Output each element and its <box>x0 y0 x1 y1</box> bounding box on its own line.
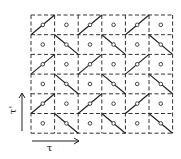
lattice-point <box>135 62 139 66</box>
lattice-point <box>41 122 45 126</box>
grid-cell-slash <box>78 94 102 114</box>
lattice-point <box>159 102 163 106</box>
vertical-axis-label: τ' <box>7 106 18 114</box>
lattice-point <box>159 122 163 126</box>
grid-cell-dot <box>159 23 163 27</box>
grid-cell-dot <box>65 102 69 106</box>
lattice-point <box>41 23 45 27</box>
lattice-point <box>135 43 139 47</box>
lattice-point <box>41 102 45 106</box>
lattice-point <box>88 82 92 86</box>
grid-cell-dot <box>135 122 139 126</box>
lattice-point <box>65 82 69 86</box>
grid-cell-dot <box>88 122 92 126</box>
grid-cell-dot <box>159 62 163 66</box>
lattice-point <box>135 122 139 126</box>
grid-cell-slash <box>125 15 149 35</box>
grid-cell-backslash <box>55 114 79 134</box>
grid-cell-dot <box>65 62 69 66</box>
horizontal-axis-arrow <box>32 138 79 144</box>
lattice-point <box>159 82 163 86</box>
lattice-point <box>112 122 116 126</box>
grid-cell-dot <box>135 43 139 47</box>
grid-cell-dot <box>88 43 92 47</box>
grid-cell-backslash <box>149 114 173 134</box>
grid-cell-slash <box>31 15 55 35</box>
lattice-point <box>65 43 69 47</box>
lattice-point <box>135 82 139 86</box>
lattice-point <box>159 43 163 47</box>
lattice-point <box>112 102 116 106</box>
lattice-point <box>88 23 92 27</box>
lattice-point <box>88 62 92 66</box>
grid-cell-dot <box>65 23 69 27</box>
lattice-point <box>65 122 69 126</box>
vertical-axis-arrow <box>19 93 25 131</box>
grid-cell-slash <box>31 54 55 74</box>
lattice-point <box>41 43 45 47</box>
grid-cell-backslash <box>149 35 173 55</box>
lattice-diagram: τ τ' <box>0 0 181 159</box>
grid-cell-dot <box>88 82 92 86</box>
lattice-point <box>135 102 139 106</box>
lattice-point <box>135 23 139 27</box>
grid-cell-dot <box>41 82 45 86</box>
lattice-point <box>65 102 69 106</box>
lattice-point <box>88 102 92 106</box>
grid-cell-slash <box>125 54 149 74</box>
grid-cell-backslash <box>102 35 126 55</box>
grid-cell-dot <box>112 62 116 66</box>
lattice-point <box>88 122 92 126</box>
lattice-point <box>112 62 116 66</box>
lattice-point <box>65 23 69 27</box>
grid-cell-backslash <box>102 74 126 94</box>
grid-cell-slash <box>78 54 102 74</box>
grid-cell-backslash <box>55 35 79 55</box>
lattice-point <box>41 82 45 86</box>
lattice-point <box>65 62 69 66</box>
grid-cell-dot <box>135 82 139 86</box>
lattice-point <box>41 62 45 66</box>
lattice-point <box>159 62 163 66</box>
grid-cell-slash <box>31 94 55 114</box>
lattice-point <box>159 23 163 27</box>
grid-cell-slash <box>125 94 149 114</box>
grid-cell-dot <box>112 102 116 106</box>
grid-cell-slash <box>78 15 102 35</box>
grid-cell-dot <box>41 43 45 47</box>
grid-cell-dot <box>112 23 116 27</box>
lattice-point <box>112 82 116 86</box>
grid-cell-dot <box>159 102 163 106</box>
grid-cell-backslash <box>55 74 79 94</box>
grid-cell-backslash <box>149 74 173 94</box>
lattice-point <box>112 23 116 27</box>
lattice-point <box>88 43 92 47</box>
lattice-point <box>112 43 116 47</box>
horizontal-axis-label: τ <box>47 142 53 153</box>
grid-cell-dot <box>41 122 45 126</box>
grid-cell-backslash <box>102 114 126 134</box>
